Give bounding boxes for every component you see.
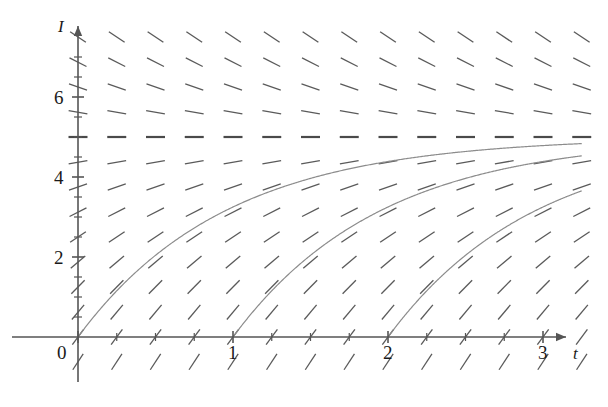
- x-tick-label-1: 1: [228, 343, 238, 362]
- y-tick-label-2: 2: [54, 248, 64, 267]
- y-axis-label: I: [58, 18, 64, 35]
- solution-curves: [78, 144, 582, 337]
- slope-field-marks: [69, 32, 592, 370]
- x-tick-label-2: 2: [383, 343, 393, 362]
- slope-field-figure: I t 0 1 2 3 2 4 6: [0, 0, 608, 407]
- x-tick-label-0: 0: [57, 343, 67, 362]
- x-axis-label: t: [573, 345, 578, 362]
- plot-canvas: [0, 0, 608, 407]
- y-tick-label-4: 4: [54, 168, 64, 187]
- axes-lines: [12, 26, 566, 382]
- x-tick-label-3: 3: [538, 343, 548, 362]
- y-tick-label-6: 6: [54, 88, 64, 107]
